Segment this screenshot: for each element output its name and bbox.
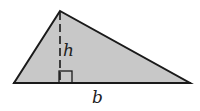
triangle-diagram: h b	[0, 0, 200, 111]
base-label: b	[92, 87, 103, 107]
height-label: h	[63, 40, 74, 60]
triangle	[14, 11, 190, 83]
